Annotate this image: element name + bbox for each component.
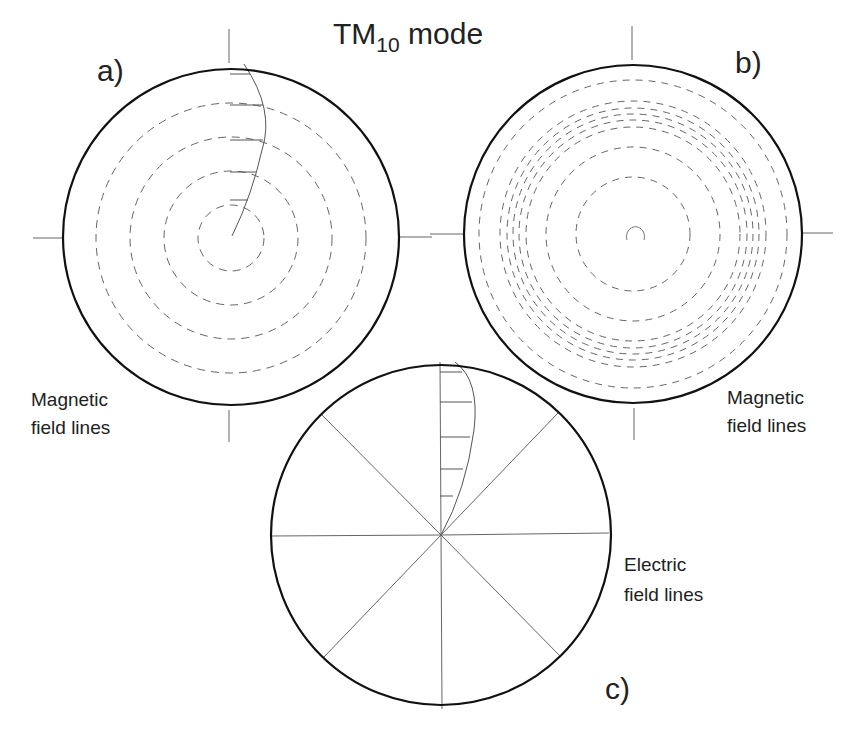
panel-b-caption-line1: Magnetic <box>727 384 806 412</box>
panel-b-waveguide-outline <box>464 65 802 403</box>
panel-c-caption-line2: field lines <box>624 580 703 610</box>
panel-b-axis-ticks <box>430 26 833 440</box>
title-subscript: 10 <box>376 33 399 56</box>
panel-c-field-profile <box>440 362 475 535</box>
diagram-title: TM10 mode <box>333 17 483 51</box>
panel-a-caption-line1: Magnetic <box>31 386 110 414</box>
panel-b-center-loop <box>627 227 645 240</box>
title-suffix: mode <box>400 17 483 50</box>
panel-c-diagram <box>271 362 611 709</box>
panel-c-caption-line1: Electric <box>624 550 703 580</box>
panel-a-label: a) <box>97 54 124 88</box>
panel-c-caption: Electric field lines <box>624 550 703 610</box>
panel-b-diagram <box>430 26 833 440</box>
panel-a-magnetic-field-rings <box>96 103 366 373</box>
panel-c-label: c) <box>605 672 630 706</box>
title-main: TM <box>333 17 376 50</box>
panel-a-waveguide-outline <box>63 69 399 405</box>
tm10-mode-diagram <box>0 0 856 743</box>
panel-b-caption-line2: field lines <box>727 412 806 440</box>
panel-a-caption: Magnetic field lines <box>31 386 110 442</box>
panel-b-magnetic-field-rings <box>479 80 787 388</box>
panel-b-caption: Magnetic field lines <box>727 384 806 440</box>
panel-b-label: b) <box>735 46 762 80</box>
panel-a-caption-line2: field lines <box>31 414 110 442</box>
